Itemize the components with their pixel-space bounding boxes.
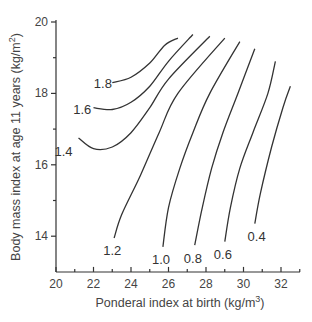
contour-label: 0.8 — [184, 251, 202, 266]
x-axis-title: Ponderal index at birth (kg/m3) — [96, 294, 265, 310]
y-ticks: 14161820 — [35, 15, 56, 243]
contour-chart: 1.81.61.41.21.00.80.60.4 20222426283032 … — [0, 0, 312, 322]
contour-label: 1.8 — [94, 76, 112, 91]
x-tick-label: 20 — [49, 277, 63, 291]
x-tick-label: 30 — [237, 277, 251, 291]
contour-label: 0.6 — [214, 247, 232, 262]
y-tick-label: 14 — [35, 229, 49, 243]
contour-label: 0.4 — [248, 229, 266, 244]
contour-line-0-6 — [225, 61, 276, 241]
contour-line-1-6 — [94, 35, 193, 110]
x-tick-label: 24 — [124, 277, 138, 291]
x-tick-label: 26 — [162, 277, 176, 291]
contour-line-1-8 — [112, 38, 178, 83]
contour-line-0-8 — [195, 49, 255, 245]
axes: 20222426283032 14161820 — [35, 15, 300, 291]
y-tick-label: 20 — [35, 15, 49, 29]
contour-label: 1.0 — [152, 252, 170, 267]
contour-label: 1.2 — [103, 243, 121, 258]
contour-line-1-2 — [114, 38, 225, 238]
y-axis-title: Body mass index at age 11 years (kg/m2) — [7, 33, 23, 261]
plot-area: 1.81.61.41.21.00.80.60.4 — [54, 35, 290, 268]
contour-label: 1.4 — [54, 144, 72, 159]
x-ticks: 20222426283032 — [49, 267, 299, 291]
contour-label: 1.6 — [73, 102, 91, 117]
y-tick-label: 16 — [35, 158, 49, 172]
y-tick-label: 18 — [35, 86, 49, 100]
x-tick-label: 22 — [87, 277, 101, 291]
x-tick-label: 32 — [274, 277, 288, 291]
contour-line-0-4 — [255, 86, 291, 223]
x-tick-label: 28 — [199, 277, 213, 291]
